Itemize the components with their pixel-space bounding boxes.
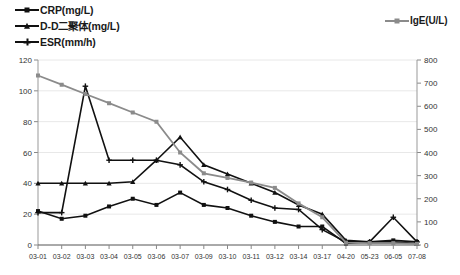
y2-axis-tick-label: 0: [424, 241, 429, 250]
x-axis-tick-label: 03-12: [266, 253, 284, 260]
x-axis-tick-label: 03-17: [313, 253, 331, 260]
x-axis-tick-label: 07-08: [408, 253, 426, 260]
y2-axis-tick-label: 800: [424, 56, 438, 65]
y2-axis-tick-label: 300: [424, 172, 438, 181]
y2-axis-tick-label: 700: [424, 79, 438, 88]
x-axis-tick-label: 06-05: [384, 253, 402, 260]
y-axis-tick-label: 40: [23, 179, 32, 188]
y2-axis-tick-label: 100: [424, 218, 438, 227]
x-axis-tick-label: 03-11: [242, 253, 259, 260]
chart-container: CRP(mg/L) D-D二聚体(mg/L) ESR(mm/h) IgE(U/L…: [0, 0, 460, 275]
y2-axis-tick-label: 600: [424, 102, 438, 111]
y-axis-tick-label: 60: [23, 149, 32, 158]
x-axis-tick-label: 03-09: [195, 253, 213, 260]
x-axis-tick-label: 03-05: [124, 253, 142, 260]
x-axis-tick-label: 03-02: [53, 253, 71, 260]
y-axis-tick-label: 80: [23, 118, 32, 127]
series-square: [36, 73, 419, 245]
x-axis-tick-label: 03-10: [219, 253, 237, 260]
y-axis-tick-label: 20: [23, 210, 32, 219]
y-axis-tick-label: 120: [19, 56, 33, 65]
x-axis-tick-label: 05-23: [361, 253, 379, 260]
x-axis-tick-label: 03-03: [76, 253, 94, 260]
series-plus: [35, 83, 420, 244]
y-axis-tick-label: 100: [19, 87, 33, 96]
series-square: [36, 191, 419, 246]
x-axis-tick-label: 03-07: [171, 253, 189, 260]
x-axis-tick-label: 03-01: [29, 253, 47, 260]
x-axis-tick-label: 04-20: [337, 253, 355, 260]
x-axis-tick-label: 03-14: [290, 253, 308, 260]
x-axis-tick-label: 03-04: [100, 253, 118, 260]
y2-axis-tick-label: 500: [424, 125, 438, 134]
plot-area: 0204060801001200100200300400500600700800…: [0, 0, 460, 275]
y2-axis-tick-label: 400: [424, 149, 438, 158]
y2-axis-tick-label: 200: [424, 195, 438, 204]
y-axis-tick-label: 0: [28, 241, 33, 250]
x-axis-tick-label: 03-06: [147, 253, 165, 260]
